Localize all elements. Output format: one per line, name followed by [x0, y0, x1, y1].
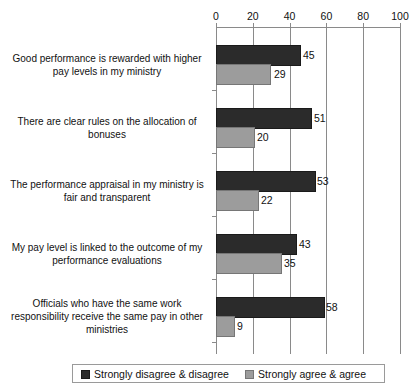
- category-label-5-line-2: responsibility receive the same pay in o…: [4, 310, 210, 323]
- gridline-100: [400, 27, 401, 354]
- bar-value-light-2: 20: [257, 132, 269, 143]
- bar-light-5: [216, 316, 235, 337]
- bar-value-light-4: 35: [284, 258, 296, 269]
- x-tick-60: [326, 23, 327, 28]
- bar-value-light-3: 22: [261, 195, 273, 206]
- bar-dark-1: [216, 45, 301, 66]
- category-label-2-line-1: There are clear rules on the allocation …: [4, 115, 210, 128]
- legend-label-2: Strongly agree & agree: [258, 368, 366, 380]
- bar-dark-5: [216, 297, 325, 318]
- x-tick-label-20: 20: [247, 10, 259, 22]
- bar-value-dark-2: 51: [314, 113, 326, 124]
- bar-value-dark-3: 53: [317, 176, 329, 187]
- category-label-1-line-2: pay levels in my ministry: [4, 65, 210, 78]
- legend-swatch-light-icon: [245, 370, 254, 379]
- cropped-header-text: [150, 0, 410, 4]
- x-tick-label-100: 100: [391, 10, 409, 22]
- y-minor-tick-4: [212, 279, 216, 280]
- x-tick-label-80: 80: [357, 10, 369, 22]
- category-label-5-line-1: Officials who have the same work: [4, 297, 210, 310]
- category-label-3-line-1: The performance appraisal in my ministry…: [4, 178, 210, 191]
- y-minor-tick-5: [212, 342, 216, 343]
- category-label-2: There are clear rules on the allocation …: [4, 115, 210, 141]
- x-tick-0: [216, 23, 217, 28]
- legend-swatch-dark-icon: [81, 370, 90, 379]
- legend-item-strongly-agree[interactable]: Strongly agree & agree: [245, 367, 366, 381]
- plot-area: 45 29 51 20 53 22 43 35 58 9: [216, 27, 400, 354]
- legend-item-strongly-disagree[interactable]: Strongly disagree & disagree: [81, 367, 229, 381]
- x-axis-line: [216, 27, 400, 28]
- x-tick-label-0: 0: [213, 10, 219, 22]
- bar-light-1: [216, 64, 271, 85]
- category-label-1: Good performance is rewarded with higher…: [4, 52, 210, 78]
- category-label-3-line-2: fair and transparent: [4, 191, 210, 204]
- x-tick-80: [363, 23, 364, 28]
- bar-chart: 0 20 40 60 80 100 Good performance is re…: [0, 0, 420, 387]
- x-tick-100: [400, 23, 401, 28]
- x-tick-40: [290, 23, 291, 28]
- bar-dark-2: [216, 108, 312, 129]
- category-label-5: Officials who have the same work respons…: [4, 297, 210, 336]
- bar-value-dark-5: 58: [326, 302, 338, 313]
- category-label-2-line-2: bonuses: [4, 128, 210, 141]
- bar-value-dark-1: 45: [303, 50, 315, 61]
- category-label-3: The performance appraisal in my ministry…: [4, 178, 210, 204]
- bar-light-3: [216, 190, 259, 211]
- category-label-4-line-1: My pay level is linked to the outcome of…: [4, 241, 210, 254]
- bar-value-light-1: 29: [274, 69, 286, 80]
- category-label-4-line-2: performance evaluations: [4, 254, 210, 267]
- x-tick-label-40: 40: [284, 10, 296, 22]
- y-minor-tick-2: [212, 153, 216, 154]
- category-label-5-line-3: ministries: [4, 323, 210, 336]
- bar-value-light-5: 9: [237, 321, 243, 332]
- legend-label-1: Strongly disagree & disagree: [94, 368, 229, 380]
- bar-value-dark-4: 43: [299, 239, 311, 250]
- chart-legend: Strongly disagree & disagree Strongly ag…: [72, 364, 385, 383]
- bar-light-4: [216, 253, 282, 274]
- bar-light-2: [216, 127, 255, 148]
- category-label-4: My pay level is linked to the outcome of…: [4, 241, 210, 267]
- x-tick-20: [253, 23, 254, 28]
- category-label-1-line-1: Good performance is rewarded with higher: [4, 52, 210, 65]
- x-tick-label-60: 60: [321, 10, 333, 22]
- gridline-80: [363, 27, 364, 354]
- x-axis-tick-labels: 0 20 40 60 80 100: [0, 10, 420, 23]
- y-minor-tick-3: [212, 216, 216, 217]
- bar-dark-3: [216, 171, 316, 192]
- bar-dark-4: [216, 234, 297, 255]
- y-minor-tick-1: [212, 90, 216, 91]
